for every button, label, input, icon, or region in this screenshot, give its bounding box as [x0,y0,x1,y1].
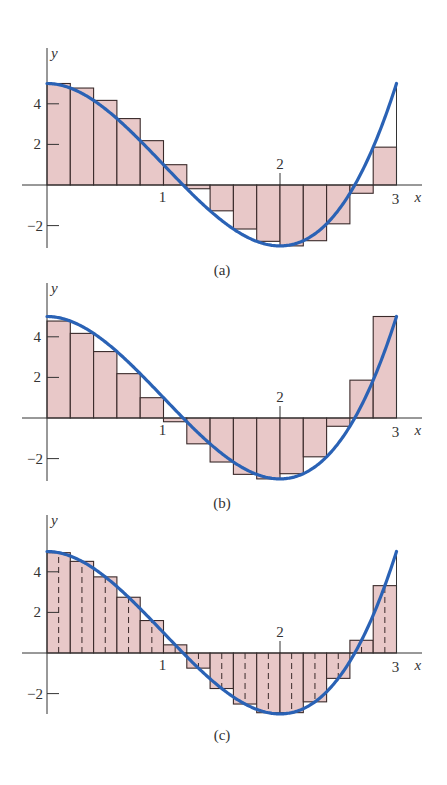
x-tick-3: 3 [392,191,400,207]
bar [280,185,303,246]
panel-b: y x 1 2 3 4 2 −2 (b) [22,280,422,512]
bar [47,84,70,186]
bar [327,418,350,426]
bar [47,321,70,418]
bar [94,352,117,418]
x-tick-2: 2 [276,156,284,172]
bar [70,333,93,418]
bar [140,398,163,418]
bar [187,185,210,189]
panel-a: y x 1 2 3 4 2 −2 (a) [22,45,422,279]
x-tick-3: 3 [392,659,400,675]
bar [303,418,326,457]
y-tick-4: 4 [34,96,42,112]
bar [233,185,256,229]
x-tick-1: 1 [159,657,167,673]
bar [94,100,117,185]
x-tick-2: 2 [276,624,284,640]
y-axis-label: y [49,512,58,528]
x-tick-1: 1 [159,189,167,205]
panel-caption: (c) [214,727,231,744]
y-axis-label: y [49,280,58,296]
y-tick-4: 4 [34,329,42,345]
y-tick-2: 2 [34,369,42,385]
y-tick-neg2: −2 [27,686,43,702]
y-tick-2: 2 [34,604,42,620]
riemann-sum-figure: y x 1 2 3 4 2 −2 (a) y x 1 2 3 4 2 −2 (b… [0,0,447,785]
y-tick-neg2: −2 [27,451,43,467]
bar [280,418,303,474]
panel-caption: (b) [213,495,231,512]
y-tick-neg2: −2 [27,218,43,234]
y-tick-2: 2 [34,136,42,152]
x-tick-3: 3 [392,424,400,440]
bar [117,374,140,418]
x-axis-label: x [414,189,422,205]
bar [373,147,396,185]
bar [210,185,233,211]
panel-c: y x 1 2 3 4 2 −2 (c) [22,512,422,744]
bar [70,88,93,185]
bar [257,418,280,479]
bar [257,185,280,241]
y-tick-4: 4 [34,564,42,580]
x-tick-2: 2 [276,389,284,405]
y-axis-label: y [49,45,58,61]
x-tick-1: 1 [159,422,167,438]
x-axis-label: x [414,422,422,438]
panel-caption: (a) [214,262,231,279]
x-axis-label: x [414,657,422,673]
